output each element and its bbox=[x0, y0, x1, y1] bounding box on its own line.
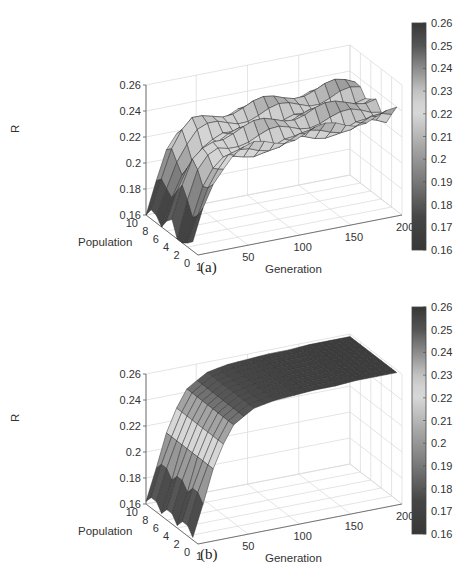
colorbar-tick-label: 0.26 bbox=[431, 301, 452, 313]
generation-axis-label: Generation bbox=[265, 263, 322, 275]
x-tick-label: 150 bbox=[345, 231, 363, 243]
x-tick-label: 50 bbox=[242, 540, 254, 552]
chart-panel-a: 0.160.180.20.220.240.2602468101501001502… bbox=[0, 0, 464, 289]
colorbar-tick-label: 0.22 bbox=[431, 108, 452, 120]
z-tick-label: 0.22 bbox=[120, 420, 141, 432]
caption-b: (b) bbox=[200, 546, 218, 563]
colorbar-tick-label: 0.19 bbox=[431, 460, 452, 472]
y-tick-label: 6 bbox=[153, 233, 159, 245]
y-tick-label: 4 bbox=[163, 530, 169, 542]
z-tick-label: 0.22 bbox=[120, 131, 141, 143]
colorbar-tick-label: 0.23 bbox=[431, 369, 452, 381]
y-tick-label: 8 bbox=[142, 514, 148, 526]
z-tick-label: 0.18 bbox=[120, 472, 141, 484]
colorbar-tick-label: 0.16 bbox=[431, 244, 452, 256]
x-tick-label: 150 bbox=[345, 520, 363, 532]
population-axis-label: Population bbox=[78, 525, 132, 537]
x-tick-label: 100 bbox=[293, 241, 311, 253]
x-tick-label: 50 bbox=[242, 251, 254, 263]
colorbar-tick-label: 0.17 bbox=[431, 221, 452, 233]
colorbar-tick-label: 0.2 bbox=[431, 153, 446, 165]
colorbar-tick-label: 0.24 bbox=[431, 62, 452, 74]
colorbar-tick-label: 0.18 bbox=[431, 483, 452, 495]
colorbar-tick-label: 0.21 bbox=[431, 131, 452, 143]
y-tick-label: 2 bbox=[173, 538, 179, 550]
z-tick-label: 0.2 bbox=[126, 446, 141, 458]
z-tick-label: 0.2 bbox=[126, 157, 141, 169]
z-tick-label: 0.24 bbox=[120, 105, 141, 117]
surface-plot-a: 0.160.180.20.220.240.2602468101501001502… bbox=[0, 0, 464, 289]
y-tick-label: 4 bbox=[163, 241, 169, 253]
colorbar-tick-label: 0.25 bbox=[431, 40, 452, 52]
y-tick-label: 0 bbox=[184, 257, 190, 269]
colorbar-tick-label: 0.18 bbox=[431, 199, 452, 211]
z-tick-label: 0.18 bbox=[120, 183, 141, 195]
caption-a: (a) bbox=[200, 259, 217, 276]
y-tick-label: 8 bbox=[142, 225, 148, 237]
r-axis-label: R bbox=[9, 414, 21, 422]
colorbar-tick-label: 0.26 bbox=[431, 17, 452, 29]
y-tick-label: 6 bbox=[153, 522, 159, 534]
colorbar-tick-label: 0.21 bbox=[431, 415, 452, 427]
colorbar-tick-label: 0.17 bbox=[431, 505, 452, 517]
colorbar-tick-label: 0.23 bbox=[431, 85, 452, 97]
colorbar-tick-label: 0.16 bbox=[431, 528, 452, 540]
y-tick-label: 10 bbox=[126, 217, 138, 229]
surface-plot-b: 0.160.180.20.220.240.2602468101501001502… bbox=[0, 289, 464, 578]
colorbar-tick-label: 0.19 bbox=[431, 176, 452, 188]
colorbar-tick-label: 0.25 bbox=[431, 324, 452, 336]
y-tick-label: 10 bbox=[126, 506, 138, 518]
x-tick-label: 100 bbox=[293, 530, 311, 542]
chart-panel-b: 0.160.180.20.220.240.2602468101501001502… bbox=[0, 289, 464, 578]
generation-axis-label: Generation bbox=[265, 552, 322, 564]
y-tick-label: 0 bbox=[184, 546, 190, 558]
z-tick-label: 0.26 bbox=[120, 368, 141, 380]
z-tick-label: 0.24 bbox=[120, 394, 141, 406]
colorbar-tick-label: 0.24 bbox=[431, 346, 452, 358]
z-tick-label: 0.26 bbox=[120, 79, 141, 91]
population-axis-label: Population bbox=[78, 236, 132, 248]
r-axis-label: R bbox=[9, 125, 21, 133]
y-tick-label: 2 bbox=[173, 249, 179, 261]
colorbar-tick-label: 0.2 bbox=[431, 437, 446, 449]
colorbar-tick-label: 0.22 bbox=[431, 392, 452, 404]
